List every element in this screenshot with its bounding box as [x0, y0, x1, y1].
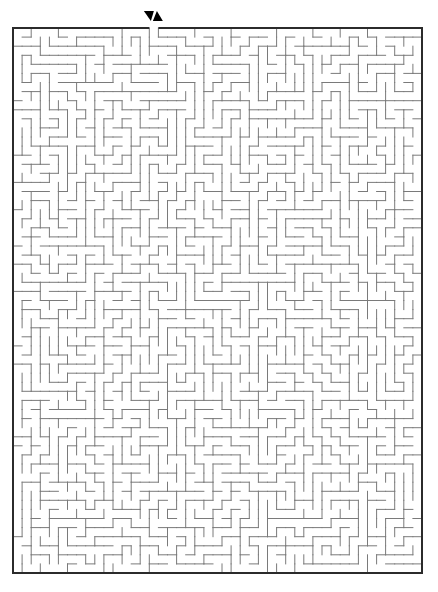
up-triangle-icon	[153, 11, 163, 21]
down-triangle-icon	[144, 11, 154, 21]
maze-canvas	[0, 0, 438, 592]
entrance-markers	[144, 11, 163, 21]
maze-walls	[13, 28, 422, 573]
maze-puzzle: Rectangular maze puzzle	[0, 0, 438, 592]
maze-interior-walls	[13, 28, 422, 573]
